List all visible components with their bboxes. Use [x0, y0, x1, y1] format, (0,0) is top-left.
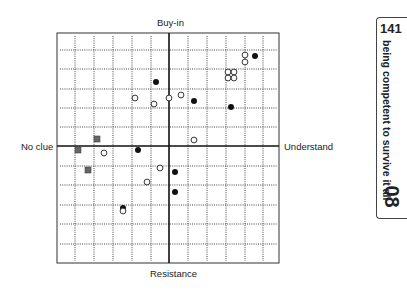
filled-circle-marker: [252, 53, 258, 59]
axis-label-right: Understand: [284, 141, 333, 152]
page-number: 141: [380, 21, 402, 36]
open-circle-marker: [157, 165, 163, 171]
plot-frame: [57, 33, 279, 263]
open-circle-marker: [231, 69, 237, 75]
open-circle-marker: [166, 95, 172, 101]
open-circle-marker: [120, 208, 126, 214]
open-circle-marker: [191, 137, 197, 143]
chapter-side-tab: 141 being competent to survive it all 08: [376, 17, 407, 219]
open-circle-marker: [225, 69, 231, 75]
open-circle-marker: [242, 59, 248, 65]
open-circle-marker: [151, 101, 157, 107]
chapter-number: 08: [380, 185, 403, 207]
filled-circle-marker: [191, 98, 197, 104]
square-marker: [85, 167, 91, 173]
filled-circle-marker: [172, 169, 178, 175]
filled-circle-marker: [172, 189, 178, 195]
filled-circle-marker: [153, 79, 159, 85]
open-circle-marker: [101, 150, 107, 156]
axis-label-bottom: Resistance: [150, 268, 197, 279]
open-circle-marker: [132, 95, 138, 101]
square-marker: [75, 147, 81, 153]
filled-circle-marker: [228, 104, 234, 110]
open-circle-marker: [242, 52, 248, 58]
open-circle-marker: [225, 75, 231, 81]
axis-label-top: Buy-in: [157, 17, 184, 28]
square-marker: [94, 136, 100, 142]
open-circle-marker: [231, 75, 237, 81]
chapter-title: being competent to survive it all: [381, 40, 392, 200]
open-circle-marker: [178, 92, 184, 98]
filled-circle-marker: [135, 147, 141, 153]
open-circle-marker: [144, 179, 150, 185]
axis-label-left: No clue: [21, 141, 53, 152]
